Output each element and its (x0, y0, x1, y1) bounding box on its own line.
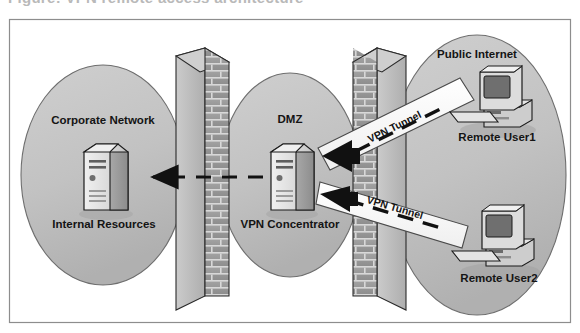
remote-user-2-keyboard (452, 251, 500, 261)
vpn-concentrator-vent-3 (276, 200, 293, 202)
remote-user-2-monitor-top (482, 205, 524, 211)
brick-wall-firewall-outer (349, 46, 406, 310)
internal-resources-vent-1 (89, 190, 106, 192)
firewall-inner-side-face (176, 48, 205, 310)
remote-user-1-monitor-screen (484, 76, 510, 98)
network-diagram: Public Internet DMZ Corporate Network (0, 0, 580, 333)
internal-resources-vent-3 (89, 200, 106, 202)
remote-user-2-label: Remote User2 (460, 272, 537, 284)
vpn-concentrator-vent-2 (276, 195, 293, 197)
internal-resources-side-panel (110, 152, 128, 210)
internal-resources-power-led (90, 175, 96, 181)
vpn-concentrator-drive-slot-1 (276, 160, 293, 163)
figure-canvas: Figure: VPN remote access architecture (0, 0, 580, 333)
vpn-concentrator-side-panel (296, 152, 314, 210)
remote-user-1-monitor-top (480, 66, 522, 72)
remote-user-2-monitor-screen (486, 215, 512, 237)
vpn-concentrator-power-led (277, 175, 283, 181)
internal-resources-vent-2 (89, 195, 106, 197)
internal-resources-drive-slot-2 (89, 166, 106, 169)
vpn-concentrator-label: VPN Concentrator (240, 218, 340, 230)
vpn-concentrator-vent-1 (276, 190, 293, 192)
firewall-outer-side-face (377, 48, 406, 310)
internal-resources-drive-slot-1 (89, 160, 106, 163)
internal-resources-label: Internal Resources (52, 218, 156, 230)
corporate-network-label: Corporate Network (51, 114, 155, 126)
dmz-label: DMZ (278, 113, 303, 125)
remote-user-1-label: Remote User1 (458, 131, 536, 143)
public-internet-label: Public Internet (437, 48, 517, 60)
remote-user-1-keyboard (450, 112, 498, 122)
vpn-concentrator-drive-slot-2 (276, 166, 293, 169)
